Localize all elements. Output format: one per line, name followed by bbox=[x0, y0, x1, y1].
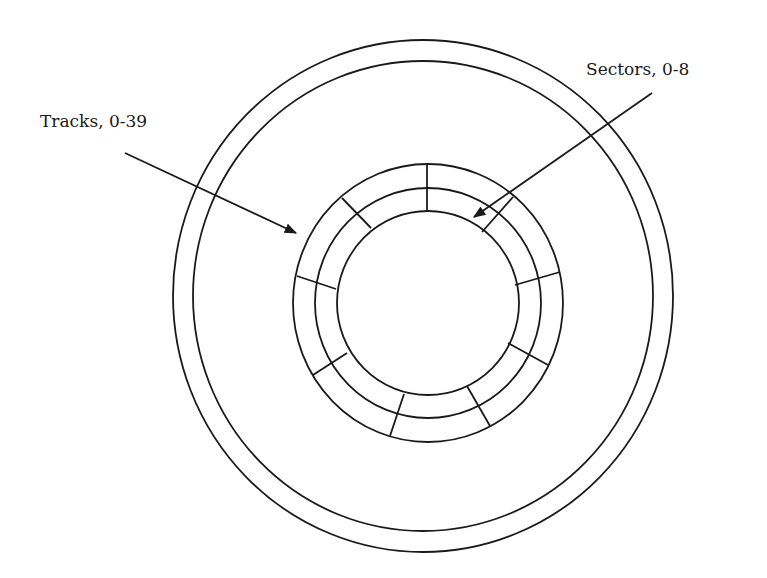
track-ring-outer bbox=[293, 164, 563, 442]
disk-outer-rings bbox=[173, 40, 673, 552]
sectors-label: Sectors, 0-8 bbox=[586, 61, 689, 78]
track-ring-middle bbox=[315, 188, 541, 418]
track-ring-inner bbox=[337, 211, 519, 395]
sector-divider bbox=[482, 197, 513, 232]
sector-divider bbox=[508, 343, 548, 365]
tracks-arrow bbox=[125, 153, 296, 233]
disk-edge-inner bbox=[193, 61, 653, 531]
disk-edge-outer bbox=[173, 40, 673, 552]
disk-drawing bbox=[0, 0, 767, 578]
sectors-arrow bbox=[474, 93, 652, 217]
sector-divider bbox=[313, 353, 347, 375]
sector-divider bbox=[467, 386, 490, 426]
tracks-label: Tracks, 0-39 bbox=[40, 113, 147, 130]
floppy-disk-diagram: Tracks, 0-39 Sectors, 0-8 bbox=[0, 0, 767, 578]
track-rings bbox=[293, 164, 563, 442]
